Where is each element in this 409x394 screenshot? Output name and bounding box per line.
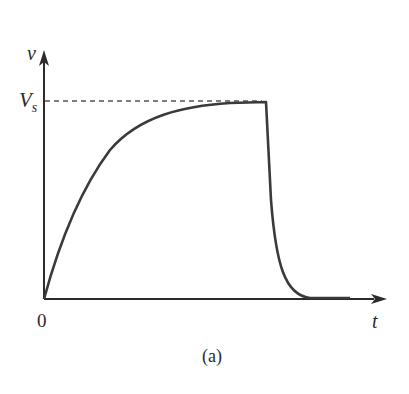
waveform-diagram	[0, 0, 409, 394]
voltage-curve	[44, 102, 350, 299]
x-axis-label: t	[372, 310, 378, 333]
vs-label-main: V	[19, 88, 32, 112]
figure-caption: (a)	[202, 346, 222, 367]
vs-label: Vs	[19, 88, 37, 116]
origin-label: 0	[37, 310, 47, 332]
y-axis-label: v	[27, 42, 36, 65]
vs-label-subscript: s	[32, 100, 37, 115]
